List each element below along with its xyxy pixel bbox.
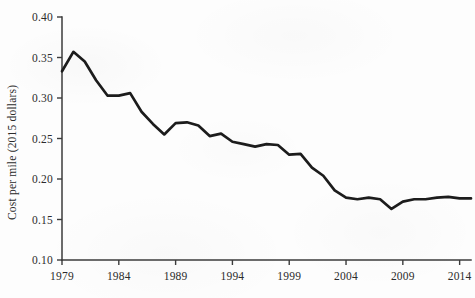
x-axis-tick-labels: 19791984198919941999200420092014 bbox=[50, 270, 471, 282]
y-axis-title: Cost per mile (2015 dollars) bbox=[6, 85, 19, 220]
data-line-cost-per-mile bbox=[62, 52, 471, 209]
x-tick-label: 1999 bbox=[277, 270, 301, 282]
x-tick-label: 2009 bbox=[391, 270, 415, 282]
line-chart: 0.400.350.300.250.200.150.10 19791984198… bbox=[0, 0, 475, 298]
y-tick-label: 0.40 bbox=[32, 11, 53, 23]
chart-page: 0.400.350.300.250.200.150.10 19791984198… bbox=[0, 0, 475, 298]
y-tick-label: 0.20 bbox=[32, 173, 53, 185]
y-tick-label: 0.35 bbox=[32, 52, 53, 64]
y-tick-label: 0.25 bbox=[32, 133, 53, 145]
x-tick-label: 1989 bbox=[164, 270, 188, 282]
x-tick-label: 2004 bbox=[334, 270, 358, 282]
x-tick-label: 1979 bbox=[50, 270, 74, 282]
y-axis-tick-labels: 0.400.350.300.250.200.150.10 bbox=[32, 11, 53, 266]
x-tick-label: 1984 bbox=[107, 270, 131, 282]
y-tick-label: 0.15 bbox=[32, 214, 53, 226]
x-tick-label: 2014 bbox=[448, 270, 472, 282]
y-tick-label: 0.30 bbox=[32, 92, 53, 104]
y-tick-label: 0.10 bbox=[32, 254, 53, 266]
data-series-group bbox=[62, 52, 471, 209]
x-tick-label: 1994 bbox=[221, 270, 245, 282]
